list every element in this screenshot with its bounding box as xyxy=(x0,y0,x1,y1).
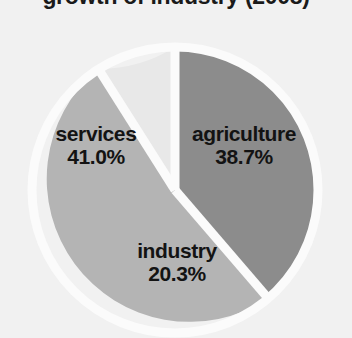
pie-label-industry-value: 20.3% xyxy=(118,263,236,286)
pie-label-services-value: 41.0% xyxy=(38,146,154,169)
pie-label-industry: industry 20.3% xyxy=(118,240,236,285)
scanned-page: growth of industry (2008) services 41.0% xyxy=(0,0,352,338)
pie-label-services: services 41.0% xyxy=(38,123,154,168)
pie-label-agriculture-value: 38.7% xyxy=(181,146,307,169)
page-title: growth of industry (2008) xyxy=(42,0,309,10)
pie-chart: services 41.0% agriculture 38.7% industr… xyxy=(0,0,352,338)
chart-title-strip: growth of industry (2008) xyxy=(0,0,352,13)
pie-label-services-name: services xyxy=(56,122,137,145)
pie-label-industry-name: industry xyxy=(137,239,217,262)
pie-label-agriculture-name: agriculture xyxy=(192,122,296,145)
pie-label-agriculture: agriculture 38.7% xyxy=(181,123,307,168)
pie-chart-svg xyxy=(0,0,352,338)
